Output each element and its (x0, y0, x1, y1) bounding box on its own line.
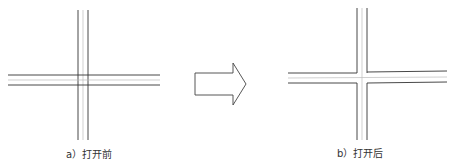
figure-a-crossing-lines (8, 10, 160, 140)
diagram-canvas (0, 0, 451, 167)
figure-b-opened-intersection (288, 8, 447, 140)
figure-a-caption: a）打开前 (66, 146, 112, 161)
right-arrow-icon (195, 63, 246, 105)
figure-b-caption: b）打开后 (337, 145, 383, 160)
